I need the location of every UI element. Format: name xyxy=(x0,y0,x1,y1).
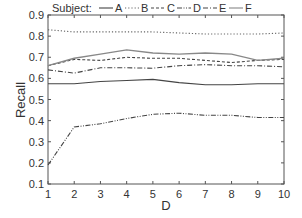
legend-title: Subject: xyxy=(52,2,92,14)
series-line-e xyxy=(48,65,284,74)
x-tick-label: 7 xyxy=(202,188,208,200)
x-axis-label: D xyxy=(161,198,170,213)
legend-label-e: E xyxy=(219,2,226,14)
y-axis-ticks: 0.10.20.30.40.50.60.70.80.9 xyxy=(29,9,284,190)
y-tick-label: 0.1 xyxy=(29,178,44,190)
x-tick-label: 10 xyxy=(278,188,290,200)
legend: Subject:ABCDEF xyxy=(50,2,252,14)
y-tick-label: 0.6 xyxy=(29,72,44,84)
y-tick-label: 0.4 xyxy=(29,115,44,127)
plot-area-border xyxy=(48,15,284,184)
legend-label-b: B xyxy=(141,2,148,14)
legend-label-f: F xyxy=(245,2,252,14)
legend-label-a: A xyxy=(115,2,123,14)
y-tick-label: 0.9 xyxy=(29,9,44,21)
series-line-f xyxy=(48,50,284,66)
legend-label-c: C xyxy=(167,2,175,14)
legend-label-d: D xyxy=(193,2,201,14)
y-tick-label: 0.8 xyxy=(29,30,44,42)
x-tick-label: 6 xyxy=(176,188,182,200)
x-axis-ticks: 12345678910 xyxy=(45,15,290,200)
series-line-d xyxy=(48,113,284,165)
x-tick-label: 4 xyxy=(124,188,130,200)
x-tick-label: 8 xyxy=(228,188,234,200)
x-tick-label: 5 xyxy=(150,188,156,200)
y-tick-label: 0.7 xyxy=(29,51,44,63)
y-tick-label: 0.3 xyxy=(29,136,44,148)
series-line-a xyxy=(48,79,284,84)
plot-frame xyxy=(48,15,284,184)
x-tick-label: 3 xyxy=(97,188,103,200)
x-tick-label: 1 xyxy=(45,188,51,200)
series-lines xyxy=(48,30,284,165)
recall-line-chart: 0.10.20.30.40.50.60.70.80.9 12345678910 … xyxy=(0,0,302,218)
y-tick-label: 0.2 xyxy=(29,157,44,169)
series-line-b xyxy=(48,30,284,34)
x-tick-label: 2 xyxy=(71,188,77,200)
x-tick-label: 9 xyxy=(255,188,261,200)
y-tick-label: 0.5 xyxy=(29,94,44,106)
y-axis-label: Recall xyxy=(13,82,28,118)
